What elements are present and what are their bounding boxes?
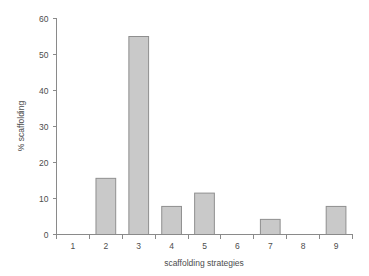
y-axis-title: % scaffolding xyxy=(16,101,26,152)
y-tick-label-60: 60 xyxy=(39,14,49,24)
bar-3 xyxy=(129,37,149,235)
y-tick-label-40: 40 xyxy=(39,86,49,96)
x-axis: 123456789 xyxy=(57,235,353,251)
plot-area: 0102030405060 123456789 scaffolding stra… xyxy=(16,14,353,269)
x-tick-label-2: 2 xyxy=(103,241,108,251)
bar-chart: 0102030405060 123456789 scaffolding stra… xyxy=(0,0,369,276)
y-tick-label-20: 20 xyxy=(39,158,49,168)
y-tick-label-30: 30 xyxy=(39,122,49,132)
x-tick-label-5: 5 xyxy=(202,241,207,251)
x-tick-label-6: 6 xyxy=(235,241,240,251)
y-tick-label-50: 50 xyxy=(39,50,49,60)
x-tick-label-3: 3 xyxy=(136,241,141,251)
bar-5 xyxy=(195,193,215,234)
x-tick-label-4: 4 xyxy=(169,241,174,251)
bar-2 xyxy=(96,178,116,234)
x-tick-label-9: 9 xyxy=(334,241,339,251)
x-tick-label-8: 8 xyxy=(301,241,306,251)
bar-9 xyxy=(326,206,346,234)
y-tick-label-0: 0 xyxy=(44,230,49,240)
x-tick-label-1: 1 xyxy=(71,241,76,251)
bar-7 xyxy=(260,219,280,234)
chart-canvas: 0102030405060 123456789 scaffolding stra… xyxy=(0,0,369,276)
x-axis-title: scaffolding strategies xyxy=(164,258,244,268)
x-tick-label-7: 7 xyxy=(268,241,273,251)
bar-4 xyxy=(162,206,182,234)
y-tick-label-10: 10 xyxy=(39,194,49,204)
y-axis: 0102030405060 xyxy=(39,14,56,240)
bars-group xyxy=(96,37,346,235)
